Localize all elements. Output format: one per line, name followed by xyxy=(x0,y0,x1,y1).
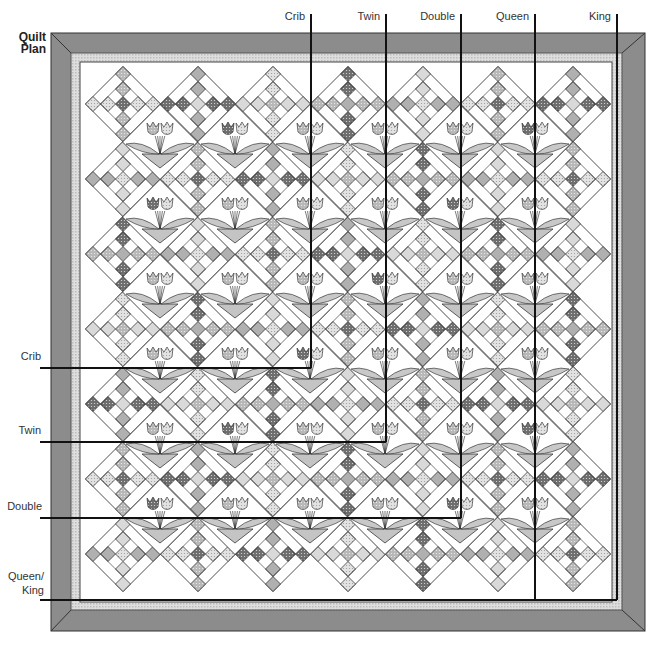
top-label-king: King xyxy=(570,10,611,22)
top-label-queen: Queen xyxy=(480,10,529,22)
top-label-twin: Twin xyxy=(343,10,380,22)
left-label-crib: Crib xyxy=(0,350,41,362)
quilt-plan-illustration xyxy=(0,0,657,646)
diagram-title: Quilt Plan xyxy=(6,31,46,55)
left-label-king: King xyxy=(0,584,44,596)
top-label-double: Double xyxy=(405,10,455,22)
left-label-double: Double xyxy=(0,500,42,512)
title-line-2: Plan xyxy=(6,43,46,55)
left-label-queen: Queen/ xyxy=(0,570,44,582)
left-label-twin: Twin xyxy=(0,424,41,436)
quilt-blocks xyxy=(86,67,611,592)
quilt-plan-diagram xyxy=(0,0,657,646)
top-label-crib: Crib xyxy=(268,10,305,22)
